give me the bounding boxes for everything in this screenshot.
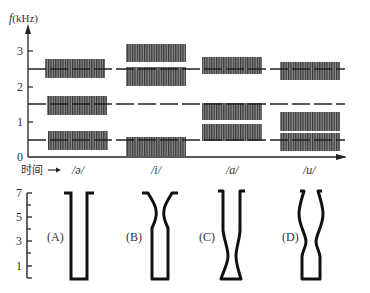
tract-label-c: (C) — [199, 230, 215, 244]
spectrogram-panel: f(kHz) 0 1 2 3 — [9, 11, 347, 177]
y-tick-1: 1 — [17, 115, 23, 129]
tract-tick-1: 1 — [16, 259, 22, 273]
vowel-label-u: /u/ — [302, 163, 317, 177]
time-arrow-head-icon — [56, 168, 61, 173]
speech-diagram: f(kHz) 0 1 2 3 — [0, 0, 370, 293]
tract-tick-3: 3 — [16, 234, 22, 248]
tract-shape-c: (C) — [199, 191, 245, 279]
y-tick-3: 3 — [17, 44, 23, 58]
tract-outline-a — [64, 193, 94, 279]
band-a-f3 — [202, 57, 262, 74]
tract-tick-7: 7 — [16, 186, 22, 200]
tract-shape-b: (B) — [126, 193, 178, 279]
tract-scale-ticks — [27, 193, 32, 278]
y-axis-label: f(kHz) — [9, 11, 38, 25]
vowel-label-a: /a/ — [225, 163, 240, 177]
tract-shape-d: (D) — [282, 191, 323, 279]
band-i-f3 — [126, 44, 186, 62]
band-u-f3 — [280, 62, 340, 80]
x-axis-label: 时间 — [21, 164, 43, 177]
tract-label-d: (D) — [282, 230, 299, 244]
tract-outline-b — [142, 193, 178, 279]
tract-outline-c — [218, 191, 245, 279]
band-u-f2 — [280, 112, 340, 131]
band-a-f2 — [202, 103, 262, 120]
band-u-f1 — [280, 133, 340, 151]
y-tick-2: 2 — [17, 80, 23, 94]
formant-bands — [45, 44, 340, 156]
band-schwa-f2 — [47, 96, 107, 115]
tract-outline-d — [299, 191, 323, 279]
tract-shape-a: (A) — [47, 193, 94, 279]
tract-tick-5: 5 — [16, 210, 22, 224]
tract-label-a: (A) — [47, 230, 64, 244]
vowel-label-i: /i/ — [150, 163, 163, 177]
vocal-tract-panel: 7 5 3 1 (A) (B) (C) (D) — [16, 186, 323, 279]
x-axis-arrow-icon — [336, 154, 347, 160]
band-a-f1 — [202, 124, 262, 141]
y-ticks — [28, 51, 33, 122]
tract-label-b: (B) — [126, 230, 142, 244]
y-axis-unit: (kHz) — [12, 12, 38, 25]
y-tick-0: 0 — [17, 150, 23, 164]
y-axis-arrow-icon — [25, 24, 31, 34]
vowel-label-schwa: /ə/ — [71, 163, 86, 177]
band-i-f2 — [126, 67, 186, 86]
